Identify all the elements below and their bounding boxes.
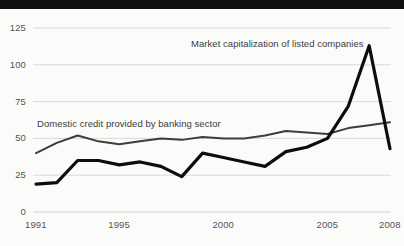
x-tick-label-2005: 2005 xyxy=(317,219,339,230)
series-lines xyxy=(36,46,390,184)
x-tick-label-2000: 2000 xyxy=(212,219,234,230)
y-tick-label-25: 25 xyxy=(0,169,26,180)
annotation-1: Domestic credit provided by banking sect… xyxy=(37,118,221,129)
x-tick-label-1995: 1995 xyxy=(108,219,130,230)
y-tick-label-75: 75 xyxy=(0,96,26,107)
chart-container: 0255075100125 19911995200020052008 Marke… xyxy=(0,0,404,246)
y-tick-label-50: 50 xyxy=(0,132,26,143)
y-tick-label-0: 0 xyxy=(0,206,26,217)
y-tick-label-125: 125 xyxy=(0,22,26,33)
x-tick-label-2008: 2008 xyxy=(379,219,401,230)
series-line-1 xyxy=(36,46,390,184)
y-tick-label-100: 100 xyxy=(0,59,26,70)
annotation-0: Market capitalization of listed companie… xyxy=(191,38,364,49)
x-tick-label-1991: 1991 xyxy=(25,219,47,230)
